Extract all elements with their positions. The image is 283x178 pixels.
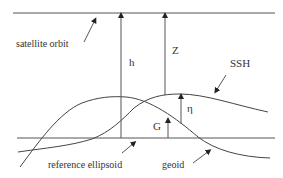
g-label: G [153, 120, 161, 132]
z-label: Z [172, 44, 179, 56]
satellite-orbit-label: satellite orbit [16, 38, 69, 49]
eta-label: η [187, 102, 193, 114]
altimetry-diagram: satellite orbit h Z SSH η G reference el… [0, 0, 283, 178]
satellite-orbit-pointer-arrow [84, 20, 95, 42]
ssh-pointer-arrow [216, 75, 226, 91]
geoid-pointer-arrow [193, 151, 209, 163]
reference-ellipsoid-pointer-arrow [122, 143, 134, 153]
reference-ellipsoid-label: reference ellipsoid [48, 159, 122, 170]
h-label: h [129, 56, 135, 68]
ssh-label: SSH [230, 57, 250, 69]
geoid-curve [20, 97, 270, 167]
geoid-label: geoid [162, 159, 184, 170]
